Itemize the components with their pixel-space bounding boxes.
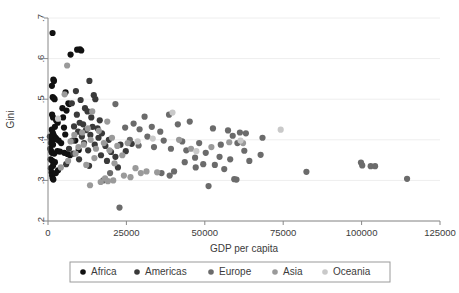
data-point: [138, 170, 144, 176]
y-axis-tick-label: .3: [35, 176, 46, 184]
legend-marker-oceania-icon: [322, 269, 328, 275]
data-point: [64, 62, 70, 68]
legend-item-label: Africa: [91, 266, 117, 277]
data-point: [111, 160, 117, 166]
data-point: [225, 127, 231, 133]
data-point: [237, 129, 243, 135]
x-axis-tick-label: 100000: [346, 227, 378, 238]
data-point: [149, 124, 155, 130]
y-axis-tick-label: .2: [35, 217, 46, 225]
data-point: [203, 150, 209, 156]
x-axis-tick-label: 125000: [424, 227, 456, 238]
data-point: [105, 178, 111, 184]
gini-vs-gdp-scatter-chart: .2.3.4.5.6.70250005000075000100000125000…: [0, 0, 459, 293]
data-point: [61, 125, 67, 131]
data-point: [59, 105, 65, 111]
data-point: [230, 133, 236, 139]
data-point: [114, 143, 120, 149]
data-point: [157, 129, 163, 135]
data-point: [104, 118, 110, 124]
data-point: [58, 164, 64, 170]
data-point: [169, 110, 175, 116]
data-point: [154, 169, 160, 175]
data-point: [106, 147, 112, 153]
data-point: [143, 168, 149, 174]
data-point: [144, 133, 150, 139]
data-point: [50, 176, 56, 182]
data-point: [88, 137, 94, 143]
data-point: [93, 146, 99, 152]
data-point: [208, 144, 214, 150]
legend-item-label: Asia: [283, 266, 303, 277]
data-point: [119, 152, 125, 158]
data-point: [49, 83, 55, 89]
data-point: [92, 96, 98, 102]
data-point: [73, 151, 79, 157]
data-point: [73, 88, 79, 94]
data-point: [175, 121, 181, 127]
data-point: [237, 138, 243, 144]
data-point: [205, 183, 211, 189]
legend: AfricaAmericasEuropeAsiaOceania: [70, 262, 390, 282]
x-axis-tick-label: 50000: [192, 227, 218, 238]
data-point: [200, 161, 206, 167]
data-point: [75, 144, 81, 150]
data-point: [193, 164, 199, 170]
data-point: [218, 142, 224, 148]
scatter-plot-figure: .2.3.4.5.6.70250005000075000100000125000…: [0, 0, 459, 293]
data-point: [150, 135, 156, 141]
data-point: [168, 146, 174, 152]
data-point: [107, 170, 113, 176]
data-point: [101, 140, 107, 146]
data-point: [193, 148, 199, 154]
legend-marker-asia-icon: [272, 269, 278, 275]
data-point: [79, 129, 85, 135]
data-point: [161, 138, 167, 144]
data-point: [121, 172, 127, 178]
data-point: [212, 162, 218, 168]
x-axis-tick-label: 25000: [113, 227, 139, 238]
data-point: [71, 123, 77, 129]
x-axis-tick-label: 75000: [270, 227, 296, 238]
data-point: [89, 108, 95, 114]
data-point: [246, 158, 252, 164]
x-axis-title: GDP per capita: [210, 243, 279, 254]
x-axis-tick-label: 0: [45, 227, 50, 238]
data-point: [125, 140, 131, 146]
data-point: [91, 155, 97, 161]
data-point: [74, 112, 80, 118]
data-point: [55, 116, 61, 122]
data-point: [278, 127, 284, 133]
data-point: [132, 165, 138, 171]
legend-marker-africa-icon: [80, 269, 86, 275]
legend-item-label: Europe: [219, 266, 252, 277]
data-point: [259, 135, 265, 141]
data-point: [258, 152, 264, 158]
data-point: [71, 132, 77, 138]
data-point: [66, 146, 72, 152]
data-point: [135, 138, 141, 144]
y-axis-tick-label: .4: [35, 136, 46, 144]
data-point: [83, 162, 89, 168]
data-point: [226, 139, 232, 145]
data-point: [69, 100, 75, 106]
data-point: [78, 47, 84, 53]
data-point: [62, 91, 68, 97]
data-point: [86, 78, 92, 84]
data-point: [65, 158, 71, 164]
data-point: [109, 135, 115, 141]
data-point: [182, 159, 188, 165]
data-point: [96, 128, 102, 134]
y-axis-tick-label: .7: [35, 14, 46, 22]
legend-marker-europe-icon: [208, 269, 214, 275]
data-point: [62, 131, 68, 137]
data-point: [188, 146, 194, 152]
data-point: [122, 125, 128, 131]
data-point: [141, 114, 147, 120]
data-point: [80, 121, 86, 127]
data-point: [58, 140, 64, 146]
data-point: [97, 117, 103, 123]
data-point: [104, 158, 110, 164]
data-point: [67, 138, 73, 144]
data-point: [51, 96, 57, 102]
